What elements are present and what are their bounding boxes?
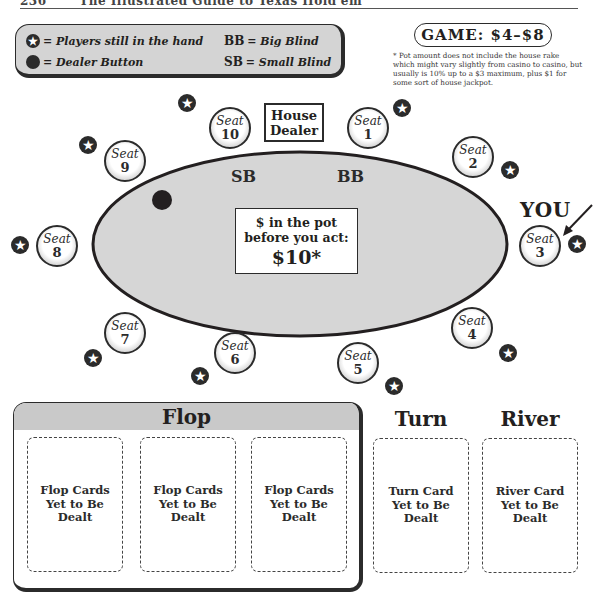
you-label: YOU	[520, 198, 571, 222]
seat-number: 8	[52, 246, 61, 259]
seat-3-you[interactable]: Seat 3	[519, 225, 561, 267]
seat-word: Seat	[526, 233, 553, 245]
flop-title: Flop	[14, 403, 359, 430]
flop-card-2: Flop Cards Yet to Be Dealt	[140, 437, 236, 572]
seat-number: 1	[363, 128, 372, 141]
pot-label: $ in the pot before you act:	[236, 215, 357, 245]
flop-card-3: Flop Cards Yet to Be Dealt	[251, 437, 347, 572]
star-icon: ★	[178, 94, 196, 112]
seat-8[interactable]: Seat 8	[36, 225, 78, 267]
seat-word: Seat	[216, 115, 243, 127]
seat-9[interactable]: Seat 9	[104, 140, 146, 182]
seat-number: 5	[353, 363, 362, 376]
seat-word: Seat	[43, 233, 70, 245]
seat-4[interactable]: Seat 4	[451, 307, 493, 349]
seat-number: 7	[120, 333, 129, 346]
dealer-button	[152, 190, 172, 210]
star-icon: ★	[499, 344, 517, 362]
pot-value: $10*	[272, 246, 322, 268]
big-blind-marker: BB	[337, 167, 364, 186]
seat-word: Seat	[221, 340, 248, 352]
star-icon: ★	[385, 377, 403, 395]
turn-title: Turn	[373, 407, 469, 431]
star-icon: ★	[568, 235, 586, 253]
seat-5[interactable]: Seat 5	[337, 342, 379, 384]
seat-10[interactable]: Seat 10	[209, 107, 251, 149]
seat-word: Seat	[354, 115, 381, 127]
flop-card-1: Flop Cards Yet to Be Dealt	[27, 437, 123, 572]
seat-number: 9	[120, 161, 129, 174]
seat-number: 10	[221, 128, 239, 141]
seat-word: Seat	[459, 144, 486, 156]
seat-word: Seat	[344, 350, 371, 362]
seat-7[interactable]: Seat 7	[104, 312, 146, 354]
small-blind-marker: SB	[231, 167, 256, 186]
star-icon: ★	[79, 136, 97, 154]
seat-word: Seat	[111, 320, 138, 332]
seat-word: Seat	[111, 148, 138, 160]
seat-2[interactable]: Seat 2	[452, 136, 494, 178]
flop-panel: Flop Flop Cards Yet to Be Dealt Flop Car…	[13, 402, 363, 592]
house-dealer-label: House Dealer	[266, 108, 322, 138]
seat-6[interactable]: Seat 6	[214, 332, 256, 374]
seat-number: 3	[535, 246, 544, 259]
star-icon: ★	[393, 99, 411, 117]
house-dealer-box: House Dealer	[264, 103, 324, 142]
star-icon: ★	[191, 367, 209, 385]
river-card: River Card Yet to Be Dealt	[482, 438, 578, 573]
seat-number: 6	[230, 353, 239, 366]
pot-box: $ in the pot before you act: $10*	[235, 208, 358, 274]
turn-card: Turn Card Yet to Be Dealt	[373, 438, 469, 573]
star-icon: ★	[501, 161, 519, 179]
seat-word: Seat	[458, 315, 485, 327]
star-icon: ★	[11, 236, 29, 254]
seat-number: 4	[467, 328, 476, 341]
river-title: River	[482, 407, 578, 431]
seat-number: 2	[468, 157, 477, 170]
seat-1[interactable]: Seat 1	[347, 107, 389, 149]
star-icon: ★	[84, 349, 102, 367]
